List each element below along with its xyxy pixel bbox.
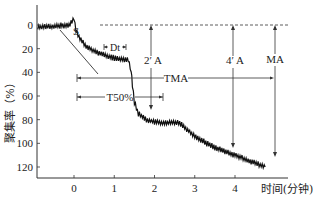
y-axis-label: 聚集率（%） — [3, 77, 17, 142]
x-tick-label: 2 — [152, 182, 158, 194]
annotation-4a: 4′ A — [226, 54, 244, 66]
y-ticks: 020406080100120 — [17, 19, 41, 173]
annotation-dt: Dt — [110, 42, 120, 53]
y-tick-label: 0 — [28, 19, 34, 31]
x-axis-label: 时间(分钟) — [261, 182, 313, 196]
annotation-2a: 2′ A — [144, 54, 162, 66]
y-tick-label: 20 — [22, 43, 34, 55]
y-tick-label: 40 — [22, 66, 34, 78]
arrow-ma — [273, 25, 277, 157]
annotation-ma: MA — [266, 53, 284, 65]
x-tick-label: 0 — [71, 182, 77, 194]
annotation-tma: TMA — [164, 72, 189, 84]
annotation-t50: T50% — [107, 91, 134, 103]
aggregation-chart: 020406080100120 01234 聚集率（%） 时间(分钟) S Dt… — [0, 0, 313, 206]
arrow-4a — [231, 25, 235, 148]
y-tick-label: 80 — [22, 114, 34, 126]
y-tick-label: 120 — [17, 161, 34, 173]
x-tick-label: 4 — [232, 182, 238, 194]
y-tick-label: 60 — [22, 90, 34, 102]
annotation-s: S — [73, 25, 79, 37]
x-tick-label: 3 — [192, 182, 198, 194]
aggregation-curve — [38, 18, 265, 168]
x-tick-label: 1 — [112, 182, 118, 194]
y-tick-label: 100 — [17, 137, 34, 149]
